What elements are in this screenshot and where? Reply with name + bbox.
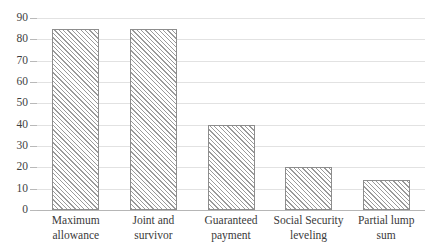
y-axis-tick-mark [30, 39, 37, 40]
y-axis-tick-mark [30, 82, 37, 83]
bar-chart: 9080706050403020100 MaximumallowanceJoin… [0, 0, 444, 249]
y-axis-tick-label: 10 [17, 183, 29, 195]
bar[interactable] [52, 29, 99, 210]
y-axis-tick-label: 40 [17, 119, 29, 131]
x-axis-category-label: Partial lump sum [347, 213, 425, 242]
x-axis-category-label: Maximumallowance [37, 213, 115, 242]
y-axis-tick-label: 60 [17, 76, 29, 88]
bar[interactable] [130, 29, 177, 210]
category-label-line-2: payment [192, 228, 270, 243]
y-axis-tick-label: 90 [17, 12, 29, 24]
x-axis-category-label: Joint and survivor [115, 213, 193, 242]
plot-area [37, 18, 425, 210]
category-label-line-1: Maximum [52, 214, 100, 226]
bar[interactable] [285, 167, 332, 210]
x-axis-category-label: Guaranteedpayment [192, 213, 270, 242]
y-axis-tick-mark [30, 18, 37, 19]
category-label-line-1: Guaranteed [204, 214, 257, 226]
y-axis-tick-label: 70 [17, 55, 29, 67]
bar[interactable] [208, 125, 255, 210]
x-axis-baseline [37, 210, 425, 211]
y-axis-tick-label: 20 [17, 162, 29, 174]
y-axis-tick-mark [30, 61, 37, 62]
category-label-line-1: Joint and survivor [132, 214, 174, 241]
y-axis-tick-mark [30, 210, 37, 211]
bar-series [37, 18, 425, 210]
y-axis-tick-label: 80 [17, 34, 29, 46]
category-label-line-2: allowance [37, 228, 115, 243]
y-axis-tick-mark [30, 103, 37, 104]
y-axis: 9080706050403020100 [0, 0, 34, 249]
x-axis-category-label: Social Securityleveling [270, 213, 348, 242]
bar-slot [130, 18, 177, 210]
category-label-line-1: Social Security [274, 214, 344, 226]
y-axis-tick-label: 30 [17, 140, 29, 152]
y-axis-tick-label: 0 [22, 204, 28, 216]
bar-slot [285, 18, 332, 210]
bar[interactable] [363, 180, 410, 210]
category-label-line-2: leveling [270, 228, 348, 243]
y-axis-tick-mark [30, 167, 37, 168]
y-axis-tick-mark [30, 125, 37, 126]
category-label-line-1: Partial lump sum [358, 214, 415, 241]
y-axis-tick-label: 50 [17, 98, 29, 110]
y-axis-tick-mark [30, 189, 37, 190]
bar-slot [363, 18, 410, 210]
x-axis-category-labels: MaximumallowanceJoint and survivorGuaran… [37, 213, 425, 249]
y-axis-tick-mark [30, 146, 37, 147]
bar-slot [52, 18, 99, 210]
bar-slot [208, 18, 255, 210]
